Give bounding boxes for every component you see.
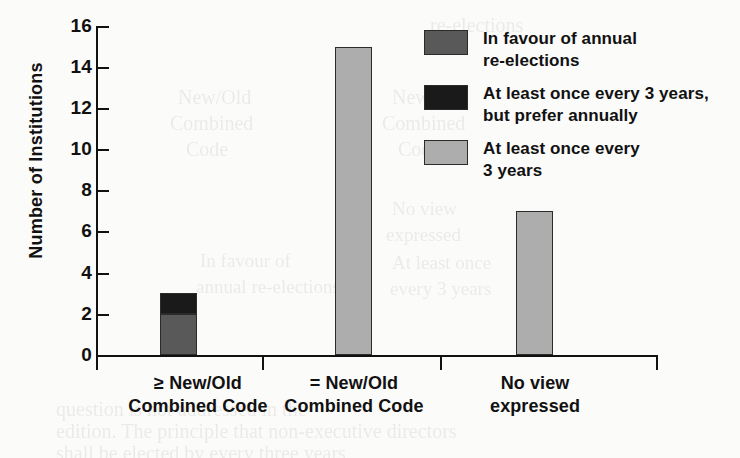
y-axis-title: Number of Institutions bbox=[26, 21, 47, 301]
bar-chart-figure: Number of Institutions 16 14 12 10 8 6 4… bbox=[0, 0, 740, 458]
x-axis-line bbox=[96, 355, 658, 357]
legend-swatch-in-favour-annual bbox=[424, 30, 468, 55]
legend-swatch-once-every-3-years bbox=[424, 140, 468, 165]
legend-item: In favour of annual re-elections bbox=[424, 28, 736, 71]
legend-item: At least once every 3 years, but prefer … bbox=[424, 83, 736, 126]
legend-label: In favour of annual re-elections bbox=[483, 28, 637, 71]
bar-segment bbox=[335, 47, 372, 355]
legend-item: At least once every 3 years bbox=[424, 138, 736, 181]
bar-segment bbox=[160, 293, 197, 314]
y-tick-label: 14 bbox=[46, 56, 92, 78]
x-tick-label-1: = New/Old Combined Code bbox=[274, 372, 434, 418]
y-tick-label: 6 bbox=[46, 220, 92, 242]
x-tick-label-2: No view expressed bbox=[455, 372, 615, 418]
bar-segment bbox=[160, 314, 197, 355]
bar-segment bbox=[516, 211, 553, 355]
y-tick-label: 16 bbox=[46, 15, 92, 37]
y-tick-label: 10 bbox=[46, 138, 92, 160]
legend-label: At least once every 3 years, but prefer … bbox=[483, 83, 709, 126]
legend-label: At least once every 3 years bbox=[483, 138, 640, 181]
chart-legend: In favour of annual re-elections At leas… bbox=[424, 28, 736, 193]
x-tick-label-0: ≥ New/Old Combined Code bbox=[118, 372, 278, 418]
y-tick-label: 8 bbox=[46, 179, 92, 201]
legend-swatch-once-3-years-prefer-annually bbox=[424, 85, 468, 110]
y-tick-label: 2 bbox=[46, 303, 92, 325]
y-tick-label: 0 bbox=[46, 344, 92, 366]
y-tick-label: 12 bbox=[46, 97, 92, 119]
y-tick-label: 4 bbox=[46, 262, 92, 284]
